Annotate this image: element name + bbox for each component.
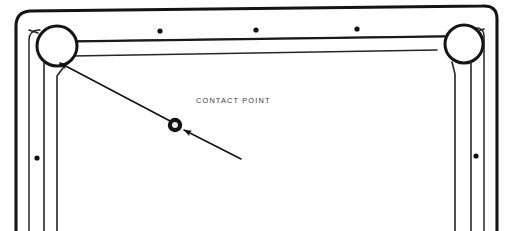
left-corner-circle (37, 26, 77, 66)
technical-diagram: CONTACT POINT (0, 0, 512, 231)
rail-dot (157, 28, 162, 33)
diagram-background (0, 0, 512, 231)
diagram-canvas: CONTACT POINT (0, 0, 512, 231)
contact-point-label: CONTACT POINT (196, 96, 271, 105)
post-dot-left (34, 155, 39, 160)
rail-dot (354, 26, 359, 31)
contact-point-marker (168, 118, 182, 132)
post-dot-right (473, 153, 478, 158)
contact-point-center (172, 122, 178, 128)
left-circle-outer (37, 26, 77, 66)
rail-dot (253, 27, 258, 32)
